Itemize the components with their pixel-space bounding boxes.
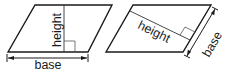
left-parallelogram: height base	[7, 5, 112, 70]
right-right-angle-marker	[180, 27, 195, 35]
left-height-label: height	[50, 12, 64, 47]
parallelogram-height-base-diagram: height base height base	[0, 0, 225, 70]
right-parallelogram: height base	[106, 5, 225, 60]
left-base-label: base	[34, 58, 61, 70]
left-right-angle-marker	[64, 41, 75, 52]
right-base-label: base	[199, 29, 225, 60]
